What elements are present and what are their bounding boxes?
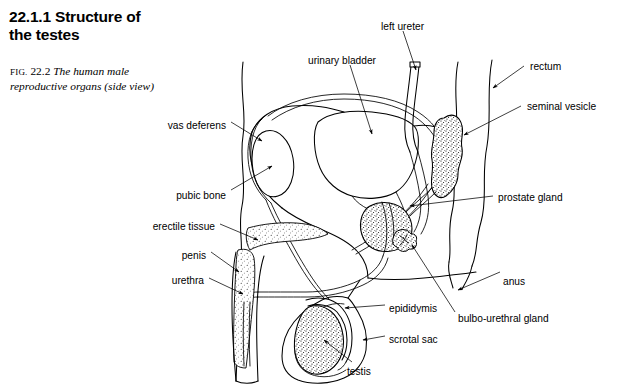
label-vas-deferens: vas deferens: [168, 120, 226, 131]
label-bulbo-urethral-gland: bulbo-urethral gland: [458, 313, 549, 324]
label-epididymis: epididymis: [389, 303, 437, 314]
label-left-ureter: left ureter: [381, 21, 424, 32]
caption-text-line-1: The human male: [53, 65, 129, 77]
label-erectile-tissue: erectile tissue: [153, 221, 215, 232]
leader-rectum: [493, 66, 524, 88]
label-urinary-bladder: urinary bladder: [308, 55, 376, 66]
page-title: 22.1.1 Structure of the testes: [9, 8, 224, 44]
caption-prefix: FIG.: [10, 67, 28, 77]
label-rectum: rectum: [530, 61, 561, 72]
caption-number: 22.2: [30, 65, 50, 77]
page-title-line-1: 22.1.1 Structure of: [9, 8, 140, 25]
urinary-bladder-shape: [314, 111, 418, 210]
leader-anus: [458, 272, 500, 290]
label-testis: testis: [347, 366, 371, 377]
leader-seminal-vesicle: [464, 106, 521, 135]
label-urethra: urethra: [172, 275, 204, 286]
testis-shape: [294, 306, 343, 374]
figure-canvas: 22.1.1 Structure of the testes FIG. 22.2…: [0, 0, 618, 390]
seminal-vesicle-shape: [431, 115, 462, 197]
label-pubic-bone: pubic bone: [176, 190, 226, 201]
leader-epididymis: [345, 305, 385, 308]
leader-prostate-gland: [410, 196, 493, 206]
label-prostate-gland: prostate gland: [498, 192, 563, 203]
urethra-tube: [241, 256, 388, 302]
label-scrotal-sac: scrotal sac: [389, 334, 438, 345]
caption-text-line-2: reproductive organs (side view): [10, 80, 154, 92]
page-title-line-2: the testes: [9, 26, 79, 43]
label-anus: anus: [503, 276, 525, 287]
label-penis: penis: [182, 250, 206, 261]
label-seminal-vesicle: seminal vesicle: [527, 101, 596, 112]
figure-caption: FIG. 22.2 The human male reproductive or…: [10, 64, 210, 93]
